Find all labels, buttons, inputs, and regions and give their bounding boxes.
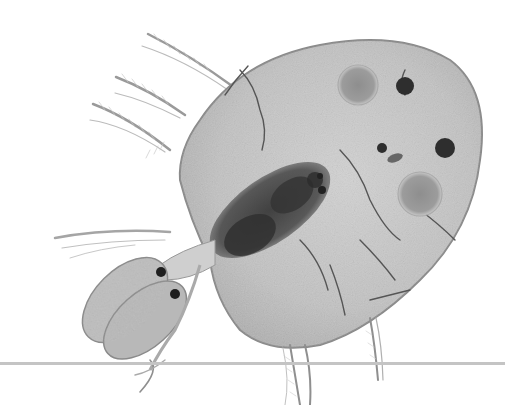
horizontal-rule-line xyxy=(0,362,505,365)
head-lobes xyxy=(67,240,215,374)
microscopy-image xyxy=(0,0,505,405)
antenna-lower xyxy=(55,231,170,258)
